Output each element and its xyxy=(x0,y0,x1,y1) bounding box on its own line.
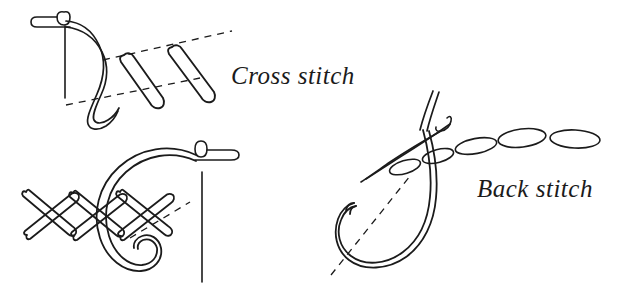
stitch-diagram-figure: Cross stitch Back stitch xyxy=(0,0,618,295)
dashed-guide-line-back xyxy=(331,176,410,275)
needle-horizontal-with-eye xyxy=(31,12,70,27)
back-stitch-label: Back stitch xyxy=(477,176,593,201)
cross-stitch-label: Cross stitch xyxy=(231,63,355,88)
thread-loop-u-shape xyxy=(336,130,437,268)
dashed-guide-line-lower xyxy=(66,78,200,105)
diagonal-stitch-stroke-2 xyxy=(168,45,215,102)
needle-horizontal-with-eye-lower xyxy=(195,141,239,160)
thread-tails xyxy=(420,91,439,131)
thread-s-curve xyxy=(66,21,119,129)
oval-stitch-chain xyxy=(388,126,601,178)
stitch-artwork xyxy=(0,0,618,295)
diagonal-stitch-stroke-1 xyxy=(120,53,164,108)
